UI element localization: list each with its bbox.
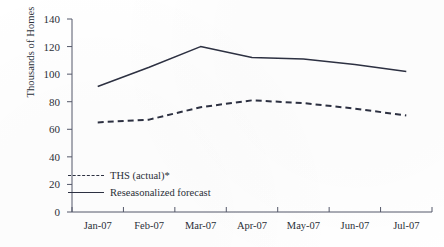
legend-swatch-dashed-icon [68,171,104,181]
data-series-group [98,47,407,123]
plot-area [0,0,444,247]
legend-item-forecast: Reseasonalized forecast [68,184,278,201]
legend-item-ths: THS (actual)* [68,167,278,184]
legend-label-forecast: Reseasonalized forecast [110,187,211,198]
series-line-2 [98,47,407,87]
line-chart-figure: Thousands of Homes 020406080100120140 Ja… [0,0,444,247]
series-line-1 [98,100,407,122]
legend-swatch-solid-icon [68,188,104,198]
legend-label-ths: THS (actual)* [110,170,170,181]
chart-legend: THS (actual)* Reseasonalized forecast [68,167,278,201]
